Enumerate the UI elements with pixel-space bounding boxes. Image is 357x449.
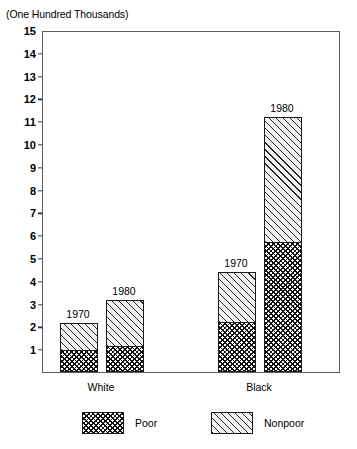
- bar-segment-nonpoor: [61, 324, 97, 350]
- x-axis-group-label-black: Black: [246, 381, 272, 393]
- y-axis-tick-label: 6: [30, 231, 36, 242]
- y-axis-tick-label: 13: [24, 71, 36, 82]
- bar-white-1980: [106, 300, 144, 372]
- bar-segment-nonpoor: [265, 118, 301, 242]
- bar-segment-poor: [61, 350, 97, 371]
- plot-area: [42, 31, 340, 373]
- bar-black-1970: [218, 272, 256, 372]
- y-axis-tick-label: 4: [30, 276, 36, 287]
- bar-segment-poor: [265, 242, 301, 371]
- bar-white-1970: [60, 323, 98, 372]
- bar-segment-poor: [219, 322, 255, 371]
- legend-label: Poor: [135, 417, 157, 429]
- legend-item-nonpoor: Nonpoor: [211, 412, 304, 434]
- bar-year-label: 1970: [224, 257, 247, 269]
- bar-year-label: 1980: [270, 102, 293, 114]
- bar-year-label: 1980: [112, 285, 135, 297]
- stacked-bar-chart: (One Hundred Thousands) 1234567891011121…: [0, 0, 357, 449]
- y-axis-tick-label: 12: [24, 94, 36, 105]
- bar-year-label: 1970: [66, 308, 89, 320]
- chart-unit-note: (One Hundred Thousands): [6, 8, 128, 20]
- legend-label: Nonpoor: [264, 417, 304, 429]
- x-axis-group-label-white: White: [88, 381, 115, 393]
- y-axis-tick-label: 3: [30, 299, 36, 310]
- y-axis-tick-label: 15: [24, 26, 36, 37]
- chart-legend: PoorNonpoor: [0, 408, 357, 444]
- y-axis: 123456789101112131415: [0, 31, 46, 373]
- y-axis-tick-label: 8: [30, 185, 36, 196]
- y-axis-tick-label: 5: [30, 254, 36, 265]
- y-axis-tick-label: 7: [30, 208, 36, 219]
- y-axis-tick-label: 2: [30, 322, 36, 333]
- bar-segment-nonpoor: [219, 273, 255, 322]
- y-axis-tick-label: 11: [24, 117, 36, 128]
- y-axis-tick-label: 10: [24, 140, 36, 151]
- bar-black-1980: [264, 117, 302, 372]
- bar-segment-nonpoor: [107, 301, 143, 345]
- bar-segment-poor: [107, 346, 143, 372]
- y-axis-tick-label: 1: [30, 345, 36, 356]
- y-axis-tick-label: 14: [24, 48, 36, 59]
- y-axis-tick-label: 9: [30, 162, 36, 173]
- legend-swatch-poor: [82, 412, 124, 434]
- legend-swatch-nonpoor: [211, 412, 253, 434]
- legend-item-poor: Poor: [82, 412, 157, 434]
